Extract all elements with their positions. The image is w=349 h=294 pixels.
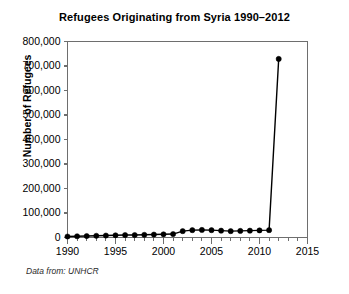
data-point-marker xyxy=(238,228,243,233)
y-tick-label: 400,000 xyxy=(23,133,61,145)
y-tick-label: 500,000 xyxy=(23,108,61,120)
y-tick-mark-group xyxy=(64,42,68,238)
chart-figure: Refugees Originating from Syria 1990–201… xyxy=(0,0,349,294)
data-point-marker xyxy=(75,234,80,239)
y-tick-label: 700,000 xyxy=(23,59,61,71)
data-point-marker xyxy=(132,232,137,237)
data-point-marker xyxy=(199,227,204,232)
data-point-marker xyxy=(103,233,108,238)
axis-frame xyxy=(68,42,308,238)
y-tick-label: 100,000 xyxy=(23,206,61,218)
y-tick-label-group: 0100,000200,000300,000400,000500,000600,… xyxy=(23,35,61,243)
data-point-marker xyxy=(171,231,176,236)
data-point-marker xyxy=(94,233,99,238)
y-tick-label: 800,000 xyxy=(23,35,61,47)
data-point-marker xyxy=(257,228,262,233)
data-point-marker xyxy=(113,233,118,238)
data-point-marker xyxy=(228,229,233,234)
data-series-line xyxy=(68,59,279,237)
data-point-marker xyxy=(161,232,166,237)
x-tick-label: 1990 xyxy=(56,245,80,257)
data-point-marker xyxy=(209,228,214,233)
data-point-marker xyxy=(142,232,147,237)
y-tick-label: 600,000 xyxy=(23,84,61,96)
data-point-marker xyxy=(151,232,156,237)
data-point-marker xyxy=(123,232,128,237)
data-point-marker xyxy=(276,56,281,61)
plot-area: 0100,000200,000300,000400,000500,000600,… xyxy=(0,0,349,294)
x-tick-mark-group xyxy=(68,238,308,244)
source-note: Data from: UNHCR xyxy=(26,266,99,276)
data-point-marker xyxy=(267,228,272,233)
x-tick-label: 2010 xyxy=(248,245,272,257)
data-point-marker xyxy=(180,229,185,234)
x-tick-label: 1995 xyxy=(104,245,128,257)
data-marker-group xyxy=(65,56,281,239)
data-point-marker xyxy=(247,228,252,233)
data-point-marker xyxy=(190,228,195,233)
x-tick-label: 2015 xyxy=(296,245,320,257)
data-point-marker xyxy=(84,233,89,238)
x-tick-label-group: 199019952000200520102015 xyxy=(56,245,320,257)
x-tick-label: 2005 xyxy=(200,245,224,257)
y-tick-label: 0 xyxy=(55,231,61,243)
data-point-marker xyxy=(65,234,70,239)
y-tick-label: 200,000 xyxy=(23,182,61,194)
x-tick-label: 2000 xyxy=(152,245,176,257)
data-point-marker xyxy=(219,228,224,233)
y-tick-label: 300,000 xyxy=(23,157,61,169)
